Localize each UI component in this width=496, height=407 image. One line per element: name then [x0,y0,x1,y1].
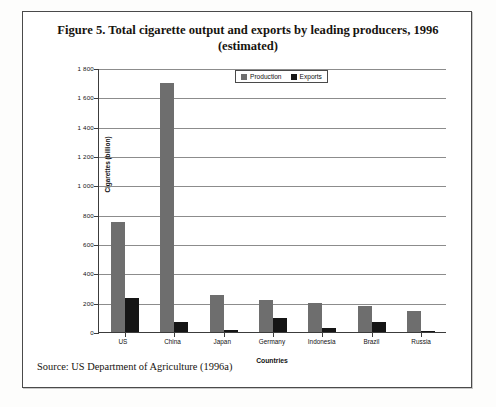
bar-production [358,306,372,332]
x-axis-tick [273,332,274,337]
legend-swatch-production [241,74,247,80]
x-axis-tick-label: Japan [197,338,247,345]
y-axis-tick [94,245,99,246]
y-axis-tick [94,128,99,129]
y-axis-tick [94,69,99,70]
figure-box: Figure 5. Total cigarette output and exp… [22,11,472,388]
bar-exports [273,318,287,332]
legend-item: Exports [291,73,322,80]
y-axis-tick [94,333,99,334]
x-axis-tick [421,332,422,337]
x-axis-tick-label: Brazil [347,338,397,345]
bar-group [100,69,149,332]
bar-exports [421,331,435,332]
bar-group [199,69,248,332]
x-axis-tick-label: Indonesia [297,338,347,345]
y-axis-tick-label: 1 200 [48,153,94,160]
y-axis-tick-label: 1 400 [48,124,94,131]
x-axis-tick [174,332,175,337]
bar-exports [174,322,188,332]
legend-label: Exports [300,73,322,80]
x-axis-tick [224,332,225,337]
y-axis-tick [94,157,99,158]
y-axis-tick [94,98,99,99]
bar-production [111,222,125,332]
bar-group [347,69,396,332]
chart-legend: ProductionExports [235,70,328,83]
y-axis-tick [94,304,99,305]
bar-production [308,303,322,332]
bar-groups [100,69,446,332]
legend-swatch-exports [291,74,297,80]
plot-area: Cigarettes (billion) 02004006008001 0001… [98,69,446,333]
bar-group [298,69,347,332]
legend-item: Production [241,73,282,80]
x-axis-tick-label: US [98,338,148,345]
legend-label: Production [250,73,282,80]
y-axis-tick-label: 200 [48,300,94,307]
y-axis-tick-label: 1 600 [48,94,94,101]
y-axis-tick-label: 800 [48,212,94,219]
bar-exports [125,298,139,332]
y-axis-tick [94,216,99,217]
bar-group [248,69,297,332]
source-note: Source: US Department of Agriculture (19… [37,361,232,372]
x-axis-tick-label: Russia [396,338,446,345]
bar-production [160,83,174,332]
bar-group [149,69,198,332]
x-axis-tick [125,332,126,337]
bar-chart: Cigarettes (billion) 02004006008001 0001… [23,12,473,389]
bar-production [407,311,421,332]
x-axis-tick [372,332,373,337]
y-axis-tick [94,274,99,275]
x-axis-tick-label: China [148,338,198,345]
y-axis-tick-label: 600 [48,241,94,248]
bar-group [397,69,446,332]
bar-exports [372,322,386,332]
y-axis-tick-label: 400 [48,270,94,277]
bar-production [259,300,273,332]
bar-exports [224,330,238,332]
y-axis-tick [94,186,99,187]
page-background: Figure 5. Total cigarette output and exp… [0,0,496,407]
y-axis-tick-label: 1 800 [48,65,94,72]
bar-production [210,295,224,332]
x-axis-tick-label: Germany [247,338,297,345]
y-axis-tick-label: 1 000 [48,182,94,189]
y-axis-tick-label: 0 [48,329,94,336]
x-axis-tick [322,332,323,337]
bar-exports [322,328,336,332]
